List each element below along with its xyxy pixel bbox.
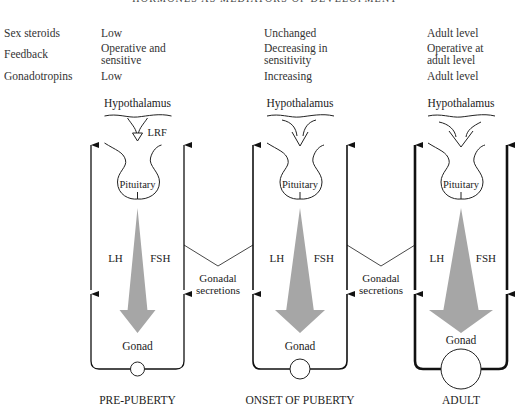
gonad-label: Gonad — [446, 334, 477, 346]
feedback-line-left-lower — [91, 294, 131, 369]
gonadal-secretions-connector-1: Gonadal secretions — [184, 245, 253, 296]
stage-label: ADULT — [442, 394, 480, 406]
gonad-circle — [131, 362, 145, 376]
gonad-label: Gonad — [285, 340, 316, 352]
hypothalamus-outline — [267, 115, 334, 117]
release-arrow-icon — [292, 132, 308, 146]
stage-label: PRE-PUBERTY — [99, 394, 176, 406]
lh-label: LH — [108, 252, 123, 264]
gonad-label: Gonad — [122, 340, 153, 352]
lh-fsh-arrow — [429, 208, 493, 333]
panel-adult: HypothalamusPituitaryLHFSHGonadADULT — [415, 97, 507, 406]
gonad-circle — [441, 349, 481, 389]
fsh-label: FSH — [150, 252, 170, 264]
pituitary-label: Pituitary — [443, 179, 480, 190]
hypothalamus-label: Hypothalamus — [104, 97, 172, 110]
hpg-axis-diagram: Gonadal secretions Gonadal secretions Hy… — [0, 0, 530, 410]
lh-fsh-arrow — [275, 208, 325, 333]
gonadal-secretions-connector-2: Gonadal secretions — [347, 245, 415, 296]
hypothalamus-outline — [105, 115, 172, 117]
gonadal-secretions-label-2-line2: secretions — [359, 284, 403, 296]
pituitary-outline — [105, 143, 162, 199]
pituitary-label: Pituitary — [119, 179, 156, 190]
panel-pre-puberty: HypothalamusLRFPituitaryLHFSHGonadPRE-PU… — [91, 97, 184, 406]
gonad-circle — [290, 359, 310, 379]
lrf-label: LRF — [148, 127, 167, 138]
pituitary-outline — [428, 143, 485, 199]
feedback-line-right-lower — [481, 294, 507, 369]
fsh-label: FSH — [314, 252, 334, 264]
lh-label: LH — [270, 252, 285, 264]
hypothalamus-label: Hypothalamus — [266, 97, 334, 110]
hypothalamus-label: Hypothalamus — [427, 97, 495, 110]
gonadal-secretions-label-1-line2: secretions — [196, 284, 240, 296]
stage-label: ONSET OF PUBERTY — [245, 394, 355, 406]
pituitary-outline — [267, 143, 324, 199]
gonadal-secretions-label-2-line1: Gonadal — [362, 272, 399, 284]
panel-onset-of-puberty: HypothalamusPituitaryLHFSHGonadONSET OF … — [245, 97, 355, 406]
hypothalamus-outline — [428, 115, 495, 117]
gonadal-secretions-label-1-line1: Gonadal — [199, 272, 236, 284]
pituitary-label: Pituitary — [282, 179, 319, 190]
lh-label: LH — [430, 252, 445, 264]
fsh-label: FSH — [476, 252, 496, 264]
feedback-line-left-lower — [415, 294, 441, 369]
lrf-arrow-icon — [133, 133, 143, 141]
feedback-line-left-lower — [253, 294, 290, 369]
release-arrow-icon — [449, 131, 473, 147]
feedback-line-right-lower — [310, 294, 347, 369]
feedback-line-right-lower — [145, 294, 185, 369]
lh-fsh-arrow — [120, 208, 156, 333]
